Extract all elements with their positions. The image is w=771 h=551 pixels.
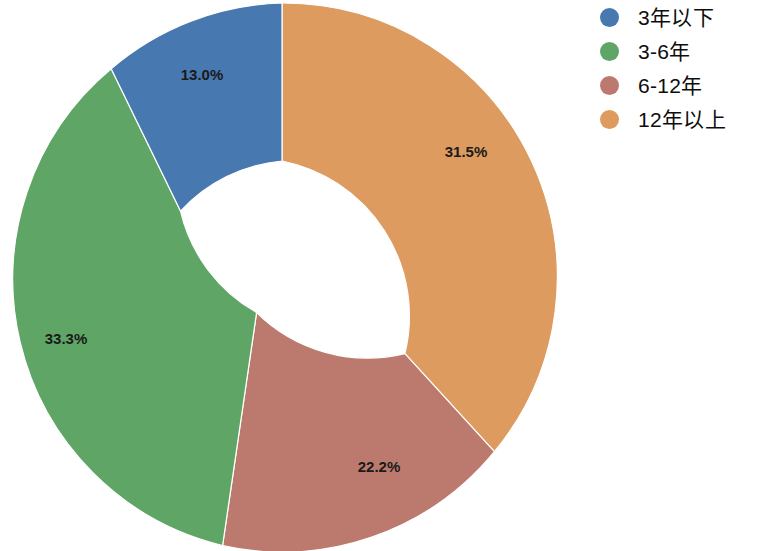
legend-swatch-icon (600, 110, 619, 129)
legend-item-label: 6-12年 (638, 75, 703, 96)
legend-item-6-12nian[interactable]: 6-12年 (600, 72, 771, 98)
donut-svg: 31.5% 22.2% 33.3% 13.0% (0, 0, 580, 551)
legend-item-label: 3-6年 (638, 41, 691, 62)
legend-item-3nian-yixia[interactable]: 3年以下 (600, 4, 771, 30)
slice-label-3nian-yixia: 13.0% (181, 66, 224, 83)
legend-swatch-icon (600, 42, 619, 61)
slice-label-12nian-yishang: 31.5% (445, 143, 488, 160)
chart-legend: 3年以下 3-6年 6-12年 12年以上 (600, 4, 771, 132)
donut-slices (13, 3, 558, 551)
slice-label-6-12nian: 22.2% (358, 458, 401, 475)
slice-label-3-6nian: 33.3% (45, 330, 88, 347)
legend-swatch-icon (600, 8, 619, 27)
chart-plot-area: 31.5% 22.2% 33.3% 13.0% (0, 0, 580, 551)
legend-item-3-6nian[interactable]: 3-6年 (600, 38, 771, 64)
legend-swatch-icon (600, 76, 619, 95)
donut-chart-figure: 31.5% 22.2% 33.3% 13.0% 3年以下 3-6年 6-12年 … (0, 0, 771, 551)
legend-item-label: 3年以下 (638, 7, 714, 28)
legend-item-12nian-yishang[interactable]: 12年以上 (600, 106, 771, 132)
legend-item-label: 12年以上 (638, 109, 726, 130)
